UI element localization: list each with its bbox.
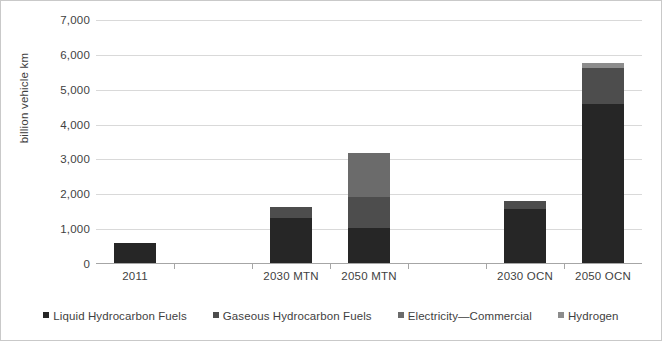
bar-segment[interactable]: [504, 201, 546, 209]
y-axis-tick-label: 3,000: [40, 153, 90, 165]
legend-item[interactable]: Electricity—Commercial: [398, 310, 532, 322]
bars-layer: [96, 20, 642, 263]
y-axis-tick-label: 6,000: [40, 49, 90, 61]
y-axis-tick-label: 0: [40, 258, 90, 270]
bar-column[interactable]: [348, 153, 390, 263]
legend-item[interactable]: Hydrogen: [558, 310, 619, 322]
legend-label: Gaseous Hydrocarbon Fuels: [223, 310, 372, 322]
stacked-bar-chart: billion vehicle km 7,0006,0005,0004,0003…: [0, 0, 662, 341]
y-axis-tick-labels: 7,0006,0005,0004,0003,0002,0001,0000: [40, 20, 90, 264]
bar-segment[interactable]: [348, 228, 390, 263]
x-axis-label: 2050 MTN: [341, 270, 396, 282]
legend-swatch-icon: [43, 312, 49, 318]
y-axis-tick-label: 4,000: [40, 119, 90, 131]
chart-legend: Liquid Hydrocarbon FuelsGaseous Hydrocar…: [0, 310, 662, 322]
x-axis-label: 2011: [122, 270, 148, 282]
bar-column[interactable]: [270, 207, 312, 263]
bar-segment[interactable]: [270, 207, 312, 219]
legend-swatch-icon: [558, 312, 564, 318]
legend-label: Electricity—Commercial: [408, 310, 532, 322]
x-axis-label: 2030 OCN: [497, 270, 553, 282]
x-axis-tick: [486, 264, 487, 269]
plot-area: [96, 20, 642, 264]
bar-segment[interactable]: [114, 243, 156, 263]
x-axis-tick: [564, 264, 565, 269]
bar-segment[interactable]: [504, 209, 546, 263]
legend-swatch-icon: [213, 312, 219, 318]
bar-segment[interactable]: [582, 68, 624, 105]
y-axis-title: billion vehicle km: [18, 28, 30, 168]
x-axis-labels: 20112030 MTN2050 MTN2030 OCN2050 OCN: [96, 270, 642, 290]
bar-column[interactable]: [504, 201, 546, 263]
x-axis-tick: [174, 264, 175, 269]
bar-segment[interactable]: [348, 153, 390, 197]
x-axis-tick: [408, 264, 409, 269]
x-axis-label: 2050 OCN: [575, 270, 631, 282]
legend-swatch-icon: [398, 312, 404, 318]
y-axis-tick-label: 7,000: [40, 14, 90, 26]
bar-segment[interactable]: [582, 104, 624, 263]
x-axis-tick: [330, 264, 331, 269]
y-axis-tick-label: 5,000: [40, 84, 90, 96]
bar-column[interactable]: [582, 63, 624, 263]
legend-item[interactable]: Gaseous Hydrocarbon Fuels: [213, 310, 372, 322]
bar-segment[interactable]: [348, 197, 390, 228]
y-axis-tick-label: 2,000: [40, 188, 90, 200]
legend-item[interactable]: Liquid Hydrocarbon Fuels: [43, 310, 186, 322]
x-axis-label: 2030 MTN: [263, 270, 318, 282]
bar-segment[interactable]: [270, 218, 312, 263]
y-axis-tick-label: 1,000: [40, 223, 90, 235]
x-axis-tick: [252, 264, 253, 269]
bar-column[interactable]: [114, 243, 156, 263]
legend-label: Hydrogen: [568, 310, 619, 322]
legend-label: Liquid Hydrocarbon Fuels: [53, 310, 186, 322]
